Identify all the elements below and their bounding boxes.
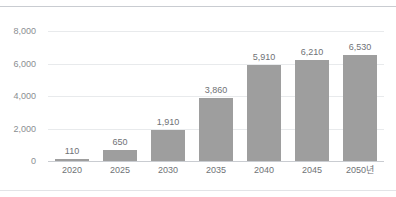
x-tick-label: 2045 bbox=[288, 166, 336, 175]
bar[interactable] bbox=[151, 130, 185, 161]
bar-value-label: 5,910 bbox=[253, 53, 276, 62]
bar-value-label: 110 bbox=[65, 147, 79, 156]
x-tick-label: 2030 bbox=[144, 166, 192, 175]
axis-line-zero bbox=[48, 161, 384, 162]
y-tick-label: 8,000 bbox=[0, 27, 36, 36]
x-tick-label: 2050년 bbox=[336, 166, 384, 175]
bar[interactable] bbox=[295, 60, 329, 161]
figure-bottom-rule bbox=[0, 190, 396, 191]
y-tick-label: 0 bbox=[0, 157, 36, 166]
bar-slot: 1,910 bbox=[151, 31, 185, 161]
bar-value-label: 650 bbox=[112, 138, 127, 147]
bar-slot: 110 bbox=[55, 31, 89, 161]
x-tick-label: 2025 bbox=[96, 166, 144, 175]
x-tick-label: 2040 bbox=[240, 166, 288, 175]
x-tick-label: 2020 bbox=[48, 166, 96, 175]
x-tick-label: 2035 bbox=[192, 166, 240, 175]
bar-slot: 3,860 bbox=[199, 31, 233, 161]
y-tick-label: 6,000 bbox=[0, 60, 36, 69]
bar-value-label: 1,910 bbox=[157, 118, 180, 127]
figure-top-rule bbox=[0, 6, 396, 7]
bar-value-label: 6,530 bbox=[349, 43, 372, 52]
bar-slot: 6,210 bbox=[295, 31, 329, 161]
bar[interactable] bbox=[343, 55, 377, 161]
bar-chart-figure: 02,0004,0006,0008,000 1106501,9103,8605,… bbox=[0, 0, 396, 197]
bar[interactable] bbox=[247, 65, 281, 161]
bar[interactable] bbox=[199, 98, 233, 161]
bar-value-label: 6,210 bbox=[301, 48, 324, 57]
y-tick-label: 2,000 bbox=[0, 125, 36, 134]
bar-slot: 650 bbox=[103, 31, 137, 161]
bar-value-label: 3,860 bbox=[205, 86, 228, 95]
plot-area: 1106501,9103,8605,9106,2106,530 bbox=[48, 31, 384, 161]
bar-slot: 6,530 bbox=[343, 31, 377, 161]
bar[interactable] bbox=[55, 159, 89, 161]
bar-slot: 5,910 bbox=[247, 31, 281, 161]
y-tick-label: 4,000 bbox=[0, 92, 36, 101]
bar[interactable] bbox=[103, 150, 137, 161]
